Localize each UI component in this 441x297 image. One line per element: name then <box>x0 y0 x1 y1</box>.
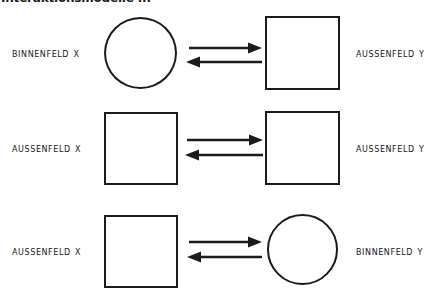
row-3-right-circle-shape <box>267 214 338 285</box>
diagram-row-3: Aussenfeld X Binnenfeld Y <box>0 206 441 297</box>
row-3-right-label: Binnenfeld Y <box>356 244 423 258</box>
arrow-left-icon <box>186 57 262 68</box>
row-2-connector-arrows <box>182 127 268 169</box>
row-3-left-square-shape <box>104 215 178 288</box>
row-2-right-square-shape <box>265 111 340 185</box>
row-1-connector-arrows <box>182 32 268 74</box>
page-title: Interaktionsmodelle ... <box>1 0 151 5</box>
arrow-left-icon <box>187 252 262 263</box>
row-1-right-label: Aussenfeld Y <box>356 46 425 60</box>
diagram-row-1: Binnenfeld X Aussenfeld Y <box>0 8 441 104</box>
row-3-left-label: Aussenfeld X <box>12 244 81 258</box>
row-1-right-square-shape <box>265 16 340 90</box>
diagram-page: Interaktionsmodelle ... Binnenfeld X Aus… <box>0 0 441 297</box>
row-2-left-square-shape <box>104 112 178 185</box>
row-1-left-circle-shape <box>104 17 177 89</box>
row-2-left-label: Aussenfeld X <box>12 141 81 155</box>
row-1-left-label: Binnenfeld X <box>12 46 79 60</box>
arrow-right-icon <box>189 43 262 54</box>
arrow-right-icon <box>189 237 262 248</box>
row-2-right-label: Aussenfeld Y <box>356 141 425 155</box>
diagram-row-2: Aussenfeld X Aussenfeld Y <box>0 103 441 199</box>
arrow-right-icon <box>187 135 263 146</box>
arrow-left-icon <box>185 150 263 161</box>
page-title-strip: Interaktionsmodelle ... <box>0 0 441 8</box>
row-3-connector-arrows <box>182 230 268 272</box>
